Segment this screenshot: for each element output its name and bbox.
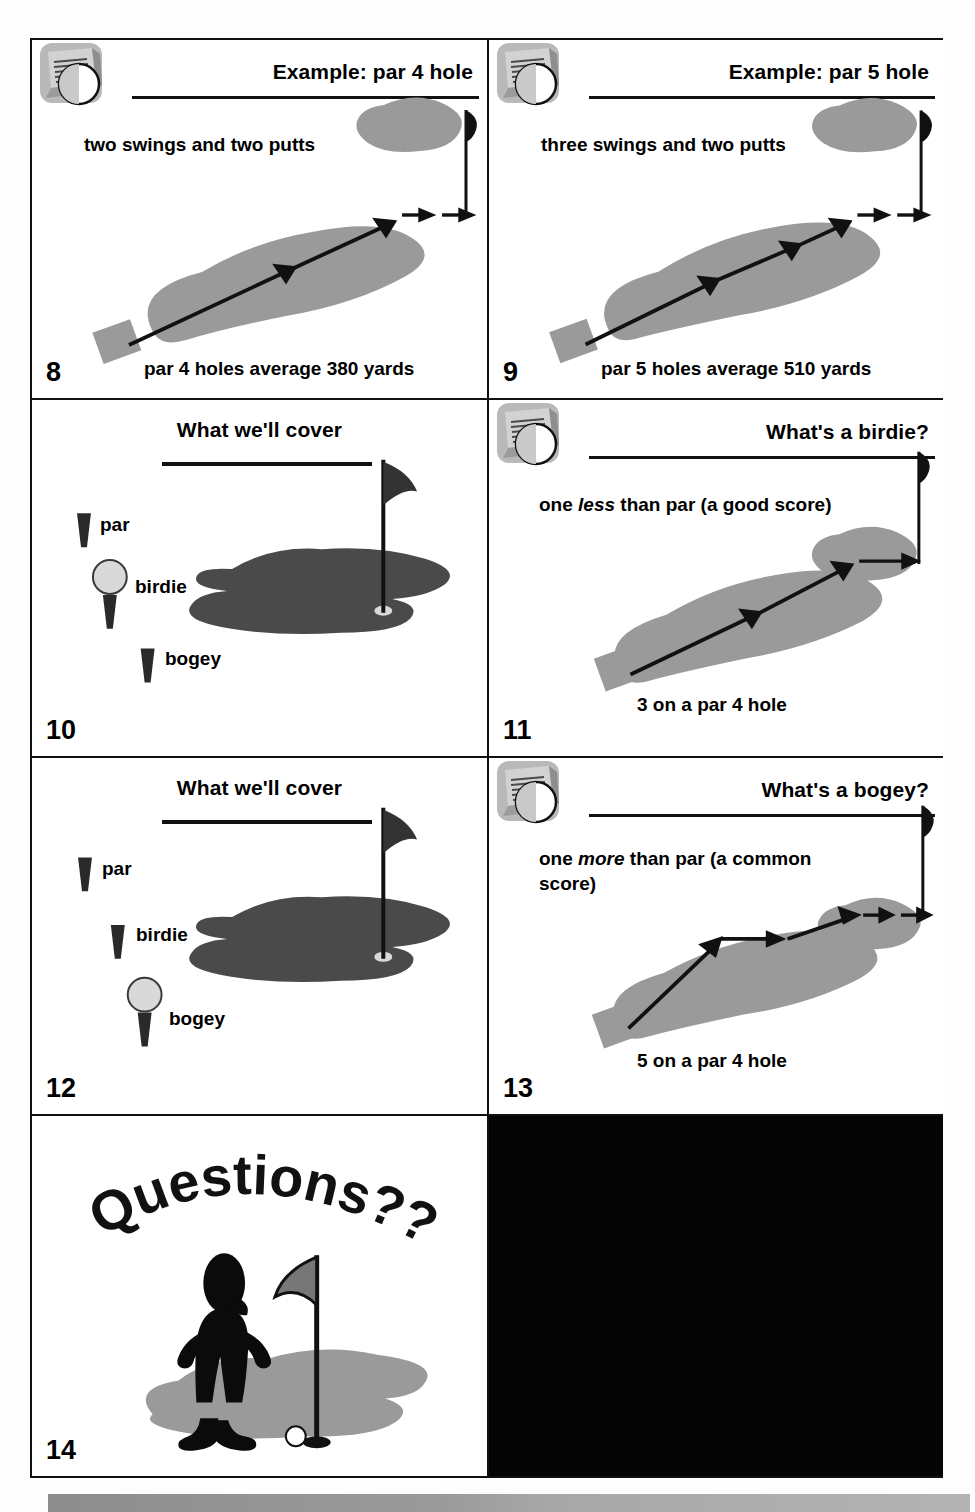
- slide-11[interactable]: What's a birdie? one less than par (a go…: [487, 398, 943, 756]
- slide-14[interactable]: Questions??: [32, 1114, 487, 1476]
- header-rule: [132, 96, 479, 99]
- footer-gray-strip: [48, 1494, 970, 1512]
- slide-footer-text: par 4 holes average 380 yards: [144, 358, 414, 380]
- slide-number: 13: [503, 1073, 533, 1104]
- slide-title: What's a birdie?: [766, 420, 929, 444]
- body-text-emphasis: less: [578, 494, 615, 515]
- slide-footer-text: par 5 holes average 510 yards: [601, 358, 871, 380]
- slide-13[interactable]: What's a bogey? one more than par (a com…: [487, 756, 943, 1114]
- slide-body-text: three swings and two putts: [541, 132, 786, 157]
- legend-label-par: par: [102, 858, 132, 880]
- handout-page: Example: par 4 hole two swings and two p…: [0, 0, 975, 1512]
- slide-number: 14: [46, 1435, 76, 1466]
- computer-monitor-icon: [495, 42, 567, 112]
- slide-10[interactable]: What we'll cover par birdie bogey 10: [32, 398, 487, 756]
- header-rule: [589, 456, 935, 459]
- header-rule: [162, 462, 372, 466]
- computer-monitor-icon: [495, 402, 567, 472]
- slide-header: What's a bogey?: [489, 758, 943, 830]
- questions-text: Questions??: [79, 1144, 449, 1256]
- computer-monitor-icon: [495, 760, 567, 830]
- legend-label-bogey: bogey: [165, 648, 221, 670]
- header-rule: [589, 814, 935, 817]
- body-text-part-1: one: [539, 494, 578, 515]
- legend-label-par: par: [100, 514, 130, 536]
- slide-body-text: one more than par (a common score): [539, 846, 869, 896]
- header-rule: [162, 820, 372, 824]
- slide-footer-text: 3 on a par 4 hole: [637, 694, 787, 716]
- slide-header: Example: par 4 hole: [32, 40, 487, 112]
- slide-header: Example: par 5 hole: [489, 40, 943, 112]
- slide-number: 12: [46, 1073, 76, 1104]
- slide-title: What's a bogey?: [761, 778, 929, 802]
- slide-8[interactable]: Example: par 4 hole two swings and two p…: [32, 40, 487, 398]
- slide-9[interactable]: Example: par 5 hole three swings and two…: [487, 40, 943, 398]
- body-text-emphasis: more: [578, 848, 624, 869]
- slide-body-text: one less than par (a good score): [539, 492, 831, 517]
- legend-label-birdie: birdie: [135, 576, 187, 598]
- slide-footer-text: 5 on a par 4 hole: [637, 1050, 787, 1072]
- svg-text:Questions??: Questions??: [79, 1144, 449, 1256]
- body-text-part-1: one: [539, 848, 578, 869]
- slide-title: What we'll cover: [32, 776, 487, 800]
- computer-monitor-icon: [38, 42, 110, 112]
- body-text-part-3: than par (a good score): [615, 494, 831, 515]
- slide-header: What's a birdie?: [489, 400, 943, 472]
- slide-title: Example: par 5 hole: [729, 60, 929, 84]
- slide-number: 9: [503, 357, 518, 388]
- legend-label-birdie: birdie: [136, 924, 188, 946]
- slide-12[interactable]: What we'll cover par birdie bogey 12: [32, 756, 487, 1114]
- slide-title: Example: par 4 hole: [273, 60, 473, 84]
- header-rule: [589, 96, 935, 99]
- slide-header: What we'll cover: [32, 400, 487, 472]
- dark-scan-panel: [487, 1114, 943, 1476]
- slide-header: What we'll cover: [32, 758, 487, 830]
- slide-title: What we'll cover: [32, 418, 487, 442]
- slide-grid: Example: par 4 hole two swings and two p…: [30, 38, 943, 1478]
- legend-label-bogey: bogey: [169, 1008, 225, 1030]
- slide-number: 11: [503, 715, 532, 746]
- questions-curved-title: Questions??: [32, 1116, 487, 1476]
- slide-body-text: two swings and two putts: [84, 132, 315, 157]
- slide-number: 10: [46, 715, 76, 746]
- slide-number: 8: [46, 357, 61, 388]
